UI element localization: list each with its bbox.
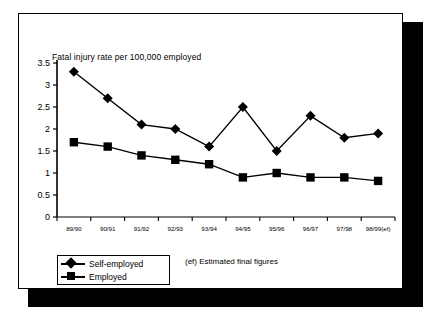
x-axis-tick-label: 94/95 bbox=[235, 225, 251, 232]
data-point-square bbox=[239, 173, 247, 181]
figure-root: Fatal injury rate per 100,000 employed 0… bbox=[0, 0, 429, 317]
series-employed bbox=[70, 138, 383, 185]
data-point-square bbox=[104, 142, 112, 150]
x-axis-tick-label: 97/98 bbox=[337, 225, 353, 232]
data-point-diamond bbox=[373, 128, 383, 138]
data-point-square bbox=[340, 173, 348, 181]
data-point-square bbox=[306, 173, 314, 181]
x-axis-tick-label: 96/97 bbox=[303, 225, 319, 232]
diamond-marker-icon bbox=[61, 258, 85, 270]
x-axis-tick-label: 92/93 bbox=[168, 225, 184, 232]
x-axis-tick-label: 98/99(ef) bbox=[366, 225, 391, 232]
data-point-diamond bbox=[170, 124, 180, 134]
y-axis-tick-label: 0 bbox=[45, 212, 50, 222]
x-axis-tick-label: 90/91 bbox=[100, 225, 116, 232]
footnote-estimated-final-figures: (ef) Estimated final figures bbox=[185, 257, 278, 266]
square-marker-icon bbox=[61, 271, 85, 283]
data-point-square bbox=[137, 151, 145, 159]
legend-label-employed: Employed bbox=[89, 272, 127, 282]
data-point-square bbox=[374, 177, 382, 185]
y-axis-tick-label: 0.5 bbox=[37, 190, 50, 200]
y-axis-tick-label: 3.5 bbox=[37, 58, 50, 68]
y-axis-tick-label: 1 bbox=[45, 168, 50, 178]
data-point-square bbox=[70, 138, 78, 146]
data-point-diamond bbox=[339, 133, 349, 143]
y-axis-tick-label: 2 bbox=[45, 124, 50, 134]
x-axis-tick-label: 89/90 bbox=[66, 225, 82, 232]
series-line bbox=[74, 142, 378, 181]
data-point-square bbox=[171, 156, 179, 164]
y-axis-tick-label: 1.5 bbox=[37, 146, 50, 156]
legend-item-self-employed: Self-employed bbox=[61, 258, 169, 270]
chart-legend: Self-employed Employed bbox=[57, 255, 170, 285]
x-axis-tick-label: 95/96 bbox=[269, 225, 285, 232]
data-point-square bbox=[273, 169, 281, 177]
chart-frame: Fatal injury rate per 100,000 employed 0… bbox=[18, 13, 403, 289]
line-chart-plot: 00.511.522.533.589/9090/9191/9292/9393/9… bbox=[19, 14, 404, 290]
series-self-employed bbox=[69, 67, 383, 156]
legend-label-self-employed: Self-employed bbox=[89, 259, 143, 269]
x-axis-tick-label: 91/92 bbox=[134, 225, 150, 232]
data-point-square bbox=[205, 160, 213, 168]
x-axis-tick-label: 93/94 bbox=[201, 225, 217, 232]
y-axis-tick-label: 2.5 bbox=[37, 102, 50, 112]
series-line bbox=[74, 72, 378, 151]
y-axis-tick-label: 3 bbox=[45, 80, 50, 90]
legend-item-employed: Employed bbox=[61, 271, 169, 283]
